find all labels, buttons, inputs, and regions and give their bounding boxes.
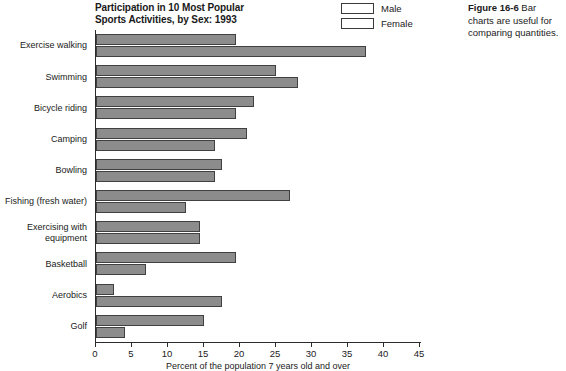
bar-group <box>96 280 420 311</box>
legend-swatch-male <box>341 3 374 14</box>
bar-male <box>96 190 290 201</box>
bar-female <box>96 171 215 182</box>
figure-caption-label: Figure 16-6 <box>468 2 519 13</box>
x-axis-tick <box>419 342 420 347</box>
bar-male <box>96 315 204 326</box>
chart-title-line-1: Participation in 10 Most Popular <box>95 2 244 13</box>
legend-label-male: Male <box>381 3 402 14</box>
bar-group <box>96 217 420 248</box>
x-axis-tick-label: 0 <box>83 348 107 359</box>
bar-male <box>96 96 254 107</box>
bar-female <box>96 296 222 307</box>
x-axis-tick <box>167 342 168 347</box>
bar-group <box>96 186 420 217</box>
bar-male <box>96 284 114 295</box>
legend-label-female: Female <box>381 18 413 29</box>
x-axis-tick-label: 20 <box>227 348 251 359</box>
bar-male <box>96 221 200 232</box>
x-axis-tick-label: 15 <box>191 348 215 359</box>
chart-title: Participation in 10 Most Popular Sports … <box>95 2 345 26</box>
x-axis-tick <box>311 342 312 347</box>
bar-group <box>96 124 420 155</box>
chart-title-line-2: Sports Activities, by Sex: 1993 <box>95 14 237 25</box>
x-axis-tick <box>203 342 204 347</box>
category-label: Bicycle riding <box>0 92 90 123</box>
x-axis-tick <box>95 342 96 347</box>
bar-chart-figure: Participation in 10 Most Popular Sports … <box>0 0 462 371</box>
category-label: Bowling <box>0 155 90 186</box>
x-axis-tick <box>239 342 240 347</box>
bar-male <box>96 252 236 263</box>
category-label: Golf <box>0 311 90 342</box>
bar-group <box>96 155 420 186</box>
x-axis-tick-label: 40 <box>371 348 395 359</box>
x-axis-tick-label: 30 <box>299 348 323 359</box>
category-label: Exercise walking <box>0 30 90 61</box>
x-axis-tick <box>383 342 384 347</box>
category-label: Aerobics <box>0 280 90 311</box>
category-label: Camping <box>0 124 90 155</box>
bar-group <box>96 311 420 342</box>
figure-caption: Figure 16-6 Bar charts are useful for co… <box>468 2 564 40</box>
x-axis-title: Percent of the population 7 years old an… <box>95 361 421 371</box>
x-axis-tick <box>347 342 348 347</box>
bar-female <box>96 264 146 275</box>
chart-legend: Male Female <box>341 2 451 32</box>
category-label: Fishing (fresh water) <box>0 186 90 217</box>
bar-group <box>96 30 420 61</box>
bar-male <box>96 159 222 170</box>
category-axis-labels: Exercise walking Swimming Bicycle riding… <box>0 30 90 342</box>
plot-area <box>95 30 420 342</box>
bar-male <box>96 34 236 45</box>
category-label: Swimming <box>0 61 90 92</box>
x-axis-tick-label: 5 <box>119 348 143 359</box>
bar-groups <box>96 30 420 342</box>
figure-page: Participation in 10 Most Popular Sports … <box>0 0 566 371</box>
category-label: Basketball <box>0 248 90 279</box>
bar-group <box>96 248 420 279</box>
bar-male <box>96 65 276 76</box>
bar-female <box>96 46 366 57</box>
bar-group <box>96 61 420 92</box>
legend-item-female: Female <box>341 17 451 30</box>
bar-male <box>96 128 247 139</box>
bar-female <box>96 233 200 244</box>
bar-female <box>96 327 125 338</box>
bar-female <box>96 108 236 119</box>
x-axis-tick-label: 10 <box>155 348 179 359</box>
x-axis-tick-label: 25 <box>263 348 287 359</box>
legend-item-male: Male <box>341 2 451 15</box>
x-axis-tick <box>275 342 276 347</box>
x-axis-tick-label: 45 <box>407 348 431 359</box>
category-label: Exercising with equipment <box>0 217 90 248</box>
x-axis-tick-label: 35 <box>335 348 359 359</box>
x-axis-line <box>95 342 421 343</box>
legend-swatch-female <box>341 18 374 29</box>
bar-female <box>96 77 298 88</box>
x-axis-tick <box>131 342 132 347</box>
bar-group <box>96 92 420 123</box>
bar-female <box>96 202 186 213</box>
bar-female <box>96 140 215 151</box>
